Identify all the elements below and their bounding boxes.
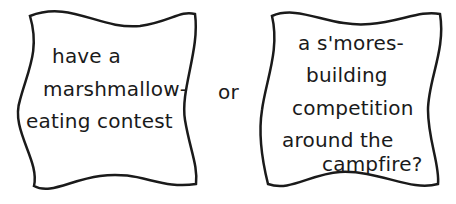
right-card-line-4: around the <box>282 128 394 152</box>
right-card-line-1: a s'mores- <box>298 31 404 55</box>
right-card-line-5: campfire? <box>322 152 423 176</box>
left-card-line-2: marshmallow- <box>43 77 187 101</box>
left-card-line-1: have a <box>52 44 121 68</box>
left-card-line-3: eating contest <box>26 109 173 133</box>
right-card-line-3: competition <box>292 96 414 120</box>
right-card-line-2: building <box>306 63 388 87</box>
or-connector: or <box>218 80 239 104</box>
